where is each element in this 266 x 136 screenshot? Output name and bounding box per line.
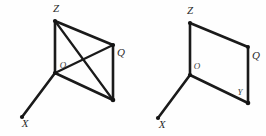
right-edge-ZQ — [190, 23, 248, 47]
right-figure: Z Q O Y X — [156, 4, 260, 130]
right-label-O: O — [194, 61, 201, 71]
left-label-Q: Q — [117, 46, 125, 58]
right-vertex-Z-dot — [188, 21, 192, 25]
geometry-diagram: Z Q O X Z Q O Y X — [0, 0, 266, 136]
left-label-Z: Z — [53, 2, 60, 14]
right-label-Y: Y — [237, 87, 243, 97]
left-axis-OX — [22, 73, 55, 117]
right-vertex-Q-dot — [246, 45, 250, 49]
figure-board: Z Q O X Z Q O Y X — [0, 0, 266, 136]
right-label-Q: Q — [252, 49, 260, 61]
right-label-Z: Z — [187, 4, 194, 16]
left-vertex-Z-dot — [53, 19, 57, 23]
right-vertex-O-dot — [188, 73, 192, 77]
right-label-X: X — [158, 118, 167, 130]
left-vertex-O-dot — [53, 71, 57, 75]
left-figure: Z Q O X — [20, 2, 125, 129]
left-vertex-Y-dot — [111, 98, 116, 103]
left-vertex-Q-dot — [111, 43, 115, 47]
left-label-O: O — [60, 60, 67, 70]
right-axis-OX — [158, 75, 190, 118]
left-label-X: X — [21, 117, 30, 129]
right-vertex-Y-dot — [246, 101, 251, 106]
